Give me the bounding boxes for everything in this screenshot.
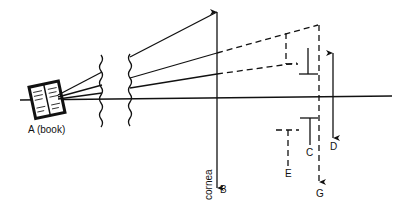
label-D: D [330, 141, 337, 152]
dashed-ray-lower [217, 63, 297, 74]
break-line-1 [100, 55, 103, 127]
label-E: E [285, 168, 292, 179]
label-G: G [316, 188, 324, 199]
book-icon [29, 81, 65, 119]
label-C: C [306, 147, 313, 158]
dashed-ray-upper [217, 25, 318, 53]
break-line-2 [129, 54, 132, 126]
optics-diagram: A (book) cornea B G D C E [0, 0, 411, 209]
rays-near [58, 72, 102, 99]
book-label: A (book) [28, 124, 65, 135]
rays-far [130, 12, 217, 88]
label-B: B [220, 184, 227, 195]
cornea-label: cornea [203, 169, 214, 200]
